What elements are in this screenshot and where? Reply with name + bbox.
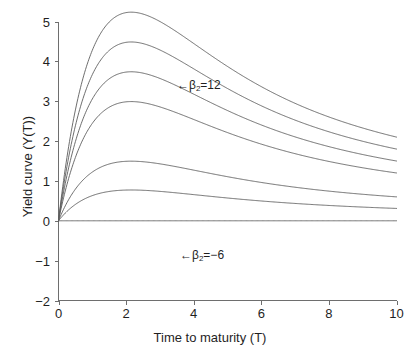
- annotation-beta-symbol: β: [192, 248, 199, 262]
- x-tick-label: 0: [55, 307, 62, 320]
- y-tick-label: −1: [12, 254, 50, 267]
- curve-beta2=-3: [59, 161, 397, 221]
- x-tick-marks: [60, 301, 398, 305]
- curve-beta2=9: [59, 42, 397, 221]
- data-curves: [59, 12, 397, 221]
- y-tick-label: 4: [12, 55, 50, 68]
- annotation-arrow-icon: ←: [180, 248, 191, 262]
- y-axis-title: Yield curve (Y(T)): [21, 82, 34, 252]
- curve-beta2=3: [59, 102, 397, 221]
- curve-beta2=12: [59, 12, 397, 221]
- x-tick-label: 8: [325, 307, 332, 320]
- annotation-arrow-icon: ←: [177, 78, 188, 92]
- annotation-beta-value: =12: [200, 78, 220, 92]
- y-tick-label: −2: [12, 294, 50, 307]
- x-tick-label: 2: [122, 307, 129, 320]
- x-axis-title: Time to maturity (T): [0, 331, 420, 344]
- annotation-beta-value: =−6: [203, 248, 224, 262]
- annotation-beta-symbol: β: [189, 78, 196, 92]
- x-tick-label: 6: [258, 307, 265, 320]
- y-tick-label: 5: [12, 15, 50, 28]
- annotation-beta2-12: ←β2=12: [177, 79, 221, 93]
- yield-curve-plot: [0, 0, 420, 353]
- chart-figure: −2−1012345 0246810 Time to maturity (T) …: [0, 0, 420, 353]
- curve-beta2=-6: [59, 190, 397, 221]
- x-tick-label: 4: [190, 307, 197, 320]
- axes-group: [59, 22, 397, 301]
- x-tick-label: 10: [389, 307, 403, 320]
- y-tick-marks: [55, 23, 59, 302]
- annotation-beta2-minus6: ←β2=−6: [180, 249, 224, 263]
